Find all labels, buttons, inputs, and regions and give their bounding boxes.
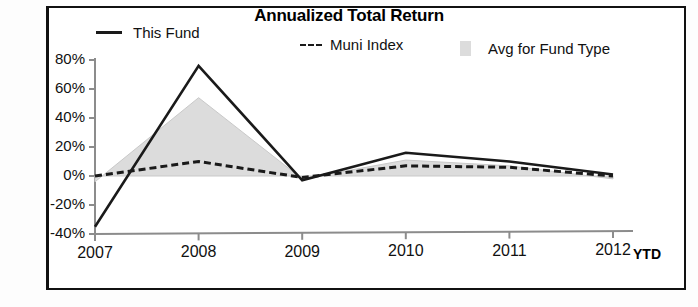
y-tick-label: -40% <box>27 224 85 241</box>
y-tick-label: 40% <box>27 108 85 125</box>
x-axis-ytd-label: YTD <box>633 246 661 262</box>
y-tick-label: 0% <box>27 166 85 183</box>
x-tick-label: 2011 <box>474 242 544 260</box>
y-tick-label: 60% <box>27 79 85 96</box>
x-tick-label: 2008 <box>164 243 234 261</box>
x-tick-label: 2009 <box>267 243 337 261</box>
y-tick-label: -20% <box>27 195 85 212</box>
annualized-total-return-chart: Annualized Total Return This Fund Muni I… <box>0 0 698 307</box>
x-tick-label: 2010 <box>371 242 441 260</box>
plot-area: 80%60%40%20%0%-20%-40% 20072008200920102… <box>0 0 698 307</box>
y-tick-label: 20% <box>27 137 85 154</box>
x-tick-label: 2007 <box>60 244 130 262</box>
y-tick-label: 80% <box>27 50 85 67</box>
